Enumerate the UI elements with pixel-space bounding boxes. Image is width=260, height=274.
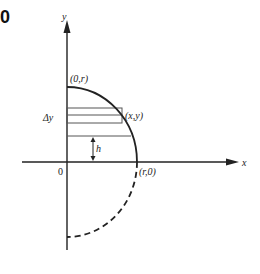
- h-label: h: [96, 143, 101, 154]
- h-arrow-down-icon: [91, 156, 96, 161]
- y-axis-label: y: [61, 11, 67, 22]
- upper-arc: [67, 87, 137, 162]
- delta-y-label: Δy: [42, 112, 54, 123]
- quarter-circle-diagram: y x 0 (0,r) (r,0) (x,y) Δy h: [0, 0, 260, 274]
- point-right-label: (r,0): [139, 166, 157, 178]
- h-arrow-up-icon: [91, 137, 96, 142]
- lower-arc-dashed: [67, 162, 137, 237]
- x-axis-arrow-icon: [226, 159, 239, 166]
- point-curve-label: (x,y): [125, 110, 144, 122]
- point-top-label: (0,r): [70, 73, 89, 85]
- origin-label: 0: [58, 166, 63, 177]
- x-axis-label: x: [241, 157, 247, 168]
